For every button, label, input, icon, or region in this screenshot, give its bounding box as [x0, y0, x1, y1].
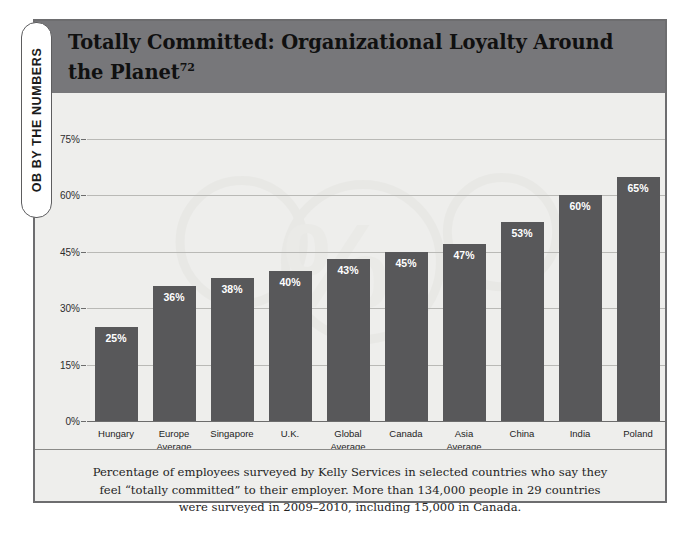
- x-axis-category-label: Poland: [603, 428, 665, 441]
- bar-value-label: 40%: [269, 276, 312, 288]
- page-title: Totally Committed: Organizational Loyalt…: [35, 30, 665, 85]
- y-axis-tick-mark: [81, 365, 86, 366]
- bar-column[interactable]: 65%Poland: [609, 139, 665, 421]
- section-tab: OB BY THE NUMBERS: [21, 22, 52, 218]
- y-axis-tick-mark: [81, 195, 86, 196]
- section-tab-label: OB BY THE NUMBERS: [30, 48, 44, 193]
- bar-series: 25%Hungary36%EuropeAverage38%Singapore40…: [87, 139, 665, 421]
- bar-value-label: 36%: [153, 291, 196, 303]
- bar-value-label: 65%: [617, 182, 660, 194]
- bar-column[interactable]: 47%AsiaAverage: [435, 139, 493, 421]
- bar[interactable]: 43%: [327, 259, 370, 421]
- bar-value-label: 60%: [559, 200, 602, 212]
- chart-caption: Percentage of employees surveyed by Kell…: [35, 450, 665, 517]
- bar-value-label: 38%: [211, 283, 254, 295]
- bar-value-label: 47%: [443, 249, 486, 261]
- bar[interactable]: 47%: [443, 244, 486, 421]
- y-axis-tick-mark: [81, 308, 86, 309]
- bar-value-label: 43%: [327, 264, 370, 276]
- bar[interactable]: 45%: [385, 252, 428, 421]
- plot-panel: % 0%15%30%45%60%75% 25%Hungary36%EuropeA…: [35, 93, 665, 449]
- chart-title-text: Totally Committed: Organizational Loyalt…: [68, 31, 613, 84]
- bar-value-label: 25%: [95, 332, 138, 344]
- bar-column[interactable]: 53%China: [493, 139, 551, 421]
- bar[interactable]: 40%: [269, 271, 312, 421]
- plot-area: 0%15%30%45%60%75% 25%Hungary36%EuropeAve…: [87, 139, 665, 421]
- bar[interactable]: 36%: [153, 286, 196, 421]
- y-axis-tick-label: 75%: [60, 134, 80, 145]
- bar-column[interactable]: 38%Singapore: [203, 139, 261, 421]
- caption-area: Percentage of employees surveyed by Kell…: [35, 449, 665, 501]
- bar-column[interactable]: 45%Canada: [377, 139, 435, 421]
- bar[interactable]: 60%: [559, 195, 602, 421]
- figure-frame: Totally Committed: Organizational Loyalt…: [33, 19, 667, 503]
- bar-column[interactable]: 43%GlobalAverage: [319, 139, 377, 421]
- bar-column[interactable]: 40%U.K.: [261, 139, 319, 421]
- y-axis-tick-mark: [81, 421, 86, 422]
- bar-column[interactable]: 60%India: [551, 139, 609, 421]
- y-axis-tick-label: 45%: [60, 246, 80, 257]
- y-axis-tick-mark: [81, 139, 86, 140]
- bar-column[interactable]: 36%EuropeAverage: [145, 139, 203, 421]
- title-footnote-marker: 72: [180, 61, 195, 74]
- bar-value-label: 53%: [501, 227, 544, 239]
- bar[interactable]: 25%: [95, 327, 138, 421]
- y-axis-tick-mark: [81, 252, 86, 253]
- bar[interactable]: 53%: [501, 222, 544, 421]
- bar-column[interactable]: 25%Hungary: [87, 139, 145, 421]
- bar-value-label: 45%: [385, 257, 428, 269]
- bar[interactable]: 38%: [211, 278, 254, 421]
- y-axis-tick-label: 15%: [60, 359, 80, 370]
- axis-baseline: [87, 421, 665, 422]
- bar[interactable]: 65%: [617, 177, 660, 421]
- y-axis-tick-label: 60%: [60, 190, 80, 201]
- y-axis-tick-label: 0%: [66, 416, 80, 427]
- chart-header-band: Totally Committed: Organizational Loyalt…: [35, 21, 665, 93]
- y-axis-tick-label: 30%: [60, 303, 80, 314]
